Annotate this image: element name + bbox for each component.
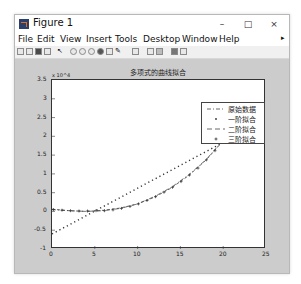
plot-axes[interactable]: 原始数据 一阶拟合 二阶拟合 三阶拟合 (51, 79, 265, 248)
legend-item-cubic: 三阶拟合 (202, 134, 266, 144)
matlab-figure-icon (19, 19, 29, 29)
menu-bar: File Edit View Insert Tools Desktop Wind… (15, 33, 289, 46)
dash-dot-line-icon (206, 104, 226, 114)
y-tick: 3.5 (37, 75, 47, 82)
menu-insert[interactable]: Insert (86, 34, 112, 44)
colorbar-icon[interactable] (147, 48, 154, 55)
print-icon[interactable] (44, 48, 51, 55)
pan-icon[interactable] (88, 48, 95, 55)
menu-tools[interactable]: Tools (115, 34, 137, 44)
legend-item-linear: 一阶拟合 (202, 114, 266, 124)
dot-marker-icon (206, 114, 226, 124)
menu-desktop[interactable]: Desktop (143, 34, 180, 44)
y-tick: -0.5 (34, 225, 46, 232)
legend-item-original: 原始数据 (202, 104, 266, 114)
chart-title: 多项式的曲线拟合 (51, 67, 265, 77)
y-tick: 0 (43, 206, 47, 213)
save-icon[interactable] (35, 48, 42, 55)
title-bar[interactable]: Figure 1 – □ × (15, 15, 289, 33)
legend-label: 三阶拟合 (228, 134, 256, 144)
menu-edit[interactable]: Edit (37, 34, 54, 44)
figure-toolbar: ↖ ✎ (15, 46, 289, 59)
zoom-in-icon[interactable] (70, 48, 77, 55)
y-tick: 3 (43, 94, 47, 101)
data-cursor-icon[interactable] (106, 48, 113, 55)
menu-file[interactable]: File (18, 34, 33, 44)
figure-canvas: 多项式的曲线拟合 x 10^4 3.5 3 2.5 2 1.5 1 0.5 0 … (15, 59, 289, 273)
y-tick: -1 (40, 244, 46, 251)
window-title: Figure 1 (33, 17, 73, 28)
x-tick: 10 (133, 250, 141, 257)
menu-overflow-arrow[interactable]: ▸ (281, 34, 285, 42)
x-tick: 5 (92, 250, 96, 257)
open-file-icon[interactable] (26, 48, 33, 55)
x-tick: 15 (176, 250, 184, 257)
y-tick: 2.5 (37, 113, 47, 120)
menu-help[interactable]: Help (219, 34, 240, 44)
legend-item-quadratic: 二阶拟合 (202, 124, 266, 134)
figure-window: Figure 1 – □ × File Edit View Insert Too… (14, 14, 290, 274)
new-figure-icon[interactable] (17, 48, 24, 55)
menu-window[interactable]: Window (182, 34, 218, 44)
y-exponent-label: x 10^4 (52, 72, 70, 78)
close-button[interactable]: × (263, 15, 285, 33)
legend[interactable]: 原始数据 一阶拟合 二阶拟合 三阶拟合 (201, 102, 265, 144)
y-tick: 0.5 (37, 188, 47, 195)
legend-label: 一阶拟合 (228, 114, 256, 124)
zoom-out-icon[interactable] (79, 48, 86, 55)
hide-plot-tools-icon[interactable] (171, 48, 178, 55)
legend-label: 原始数据 (228, 104, 256, 114)
legend-icon[interactable] (156, 48, 163, 55)
x-tick: 20 (219, 250, 227, 257)
x-tick: 0 (49, 250, 53, 257)
minimize-button[interactable]: – (211, 15, 233, 33)
edit-plot-icon[interactable]: ↖ (57, 48, 64, 55)
x-tick: 25 (262, 250, 270, 257)
dashed-line-icon (206, 124, 226, 134)
y-tick: 1 (43, 169, 47, 176)
rotate-3d-icon[interactable] (97, 48, 104, 55)
link-plot-icon[interactable] (132, 48, 139, 55)
show-plot-tools-icon[interactable] (180, 48, 187, 55)
brush-icon[interactable]: ✎ (115, 48, 122, 55)
y-tick: 2 (43, 131, 47, 138)
legend-label: 二阶拟合 (228, 124, 256, 134)
maximize-button[interactable]: □ (237, 15, 259, 33)
y-tick: 1.5 (37, 150, 47, 157)
plus-marker-icon (206, 134, 226, 144)
menu-view[interactable]: View (60, 34, 81, 44)
